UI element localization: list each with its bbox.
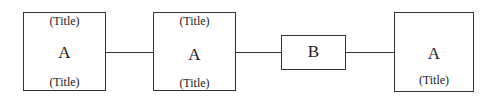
node-a-1-bottom-title: (Title) xyxy=(24,75,105,90)
node-b: B xyxy=(281,35,346,70)
node-a-2-top-title: (Title) xyxy=(154,14,235,29)
node-a-1: (Title) A (Title) xyxy=(23,12,106,91)
node-a-2-bottom-title: (Title) xyxy=(154,76,235,91)
node-a-2-label: A xyxy=(154,45,235,65)
edge-3-4 xyxy=(346,52,394,53)
node-a-1-label: A xyxy=(24,43,105,63)
node-a-3-bottom-title: (Title) xyxy=(395,73,473,88)
node-a-2: (Title) A (Title) xyxy=(153,12,236,91)
node-a-3: A (Title) xyxy=(394,12,474,92)
node-a-1-top-title: (Title) xyxy=(24,14,105,29)
edge-1-2 xyxy=(106,52,154,53)
node-a-3-label: A xyxy=(395,44,473,64)
edge-2-3 xyxy=(236,52,281,53)
node-b-label: B xyxy=(282,42,345,62)
